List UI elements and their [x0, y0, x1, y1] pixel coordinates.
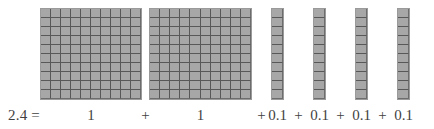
unit-cell [231, 90, 241, 99]
unit-cell [170, 81, 180, 90]
unit-cell [81, 54, 91, 63]
unit-cell [131, 72, 141, 81]
unit-cell [131, 81, 141, 90]
unit-cell [101, 9, 111, 18]
unit-cell [170, 9, 180, 18]
unit-cell [170, 18, 180, 27]
equation-left-hand-side: 2.4 = [8, 104, 40, 126]
unit-cell [221, 63, 231, 72]
unit-cell [71, 18, 81, 27]
unit-cell [314, 90, 325, 99]
unit-cell [201, 54, 211, 63]
unit-cell [211, 45, 221, 54]
unit-cell [61, 9, 71, 18]
unit-cell [51, 18, 61, 27]
unit-cell [272, 27, 283, 36]
unit-cell [190, 45, 200, 54]
unit-cell [160, 36, 170, 45]
unit-cell [81, 9, 91, 18]
unit-cell [221, 54, 231, 63]
unit-cell [81, 81, 91, 90]
unit-cell [111, 72, 121, 81]
block-rod-4 [397, 8, 410, 100]
unit-cell [150, 54, 160, 63]
unit-cell [201, 36, 211, 45]
unit-cell [211, 81, 221, 90]
unit-cell [71, 27, 81, 36]
unit-cell [241, 27, 251, 36]
unit-cell [201, 18, 211, 27]
unit-cell [101, 63, 111, 72]
block-flat-2 [149, 8, 252, 100]
unit-cell [201, 90, 211, 99]
unit-cell [121, 36, 131, 45]
unit-cell [111, 36, 121, 45]
unit-cell [41, 54, 51, 63]
unit-cell [356, 63, 367, 72]
unit-cell [241, 63, 251, 72]
unit-cell [81, 18, 91, 27]
unit-cell [190, 81, 200, 90]
unit-cell [201, 63, 211, 72]
unit-cell [190, 18, 200, 27]
unit-cell [81, 72, 91, 81]
unit-cell [272, 36, 283, 45]
unit-cell [61, 18, 71, 27]
unit-cell [41, 9, 51, 18]
unit-cell [131, 9, 141, 18]
unit-cell [211, 36, 221, 45]
unit-cell [121, 81, 131, 90]
unit-cell [71, 36, 81, 45]
unit-cell [51, 36, 61, 45]
unit-cell [71, 63, 81, 72]
unit-cell [61, 63, 71, 72]
unit-cell [221, 9, 231, 18]
unit-cell [61, 90, 71, 99]
unit-cell [398, 45, 409, 54]
block-rod-1 [271, 8, 284, 100]
unit-cell [190, 27, 200, 36]
unit-cell [121, 54, 131, 63]
unit-cell [41, 72, 51, 81]
block-rod-3 [355, 8, 368, 100]
unit-cell [221, 72, 231, 81]
unit-cell [150, 90, 160, 99]
unit-cell [314, 18, 325, 27]
unit-cell [356, 18, 367, 27]
unit-cell [131, 54, 141, 63]
unit-cell [190, 72, 200, 81]
unit-cell [91, 36, 101, 45]
unit-cell [51, 45, 61, 54]
unit-cell [170, 90, 180, 99]
unit-cell [121, 18, 131, 27]
unit-cell [131, 90, 141, 99]
unit-cell [91, 90, 101, 99]
unit-cell [231, 18, 241, 27]
unit-cell [170, 54, 180, 63]
unit-cell [170, 72, 180, 81]
unit-cell [160, 18, 170, 27]
unit-cell [180, 9, 190, 18]
unit-cell [398, 36, 409, 45]
unit-cell [201, 45, 211, 54]
unit-cell [71, 9, 81, 18]
unit-cell [231, 36, 241, 45]
unit-cell [231, 63, 241, 72]
unit-cell [41, 90, 51, 99]
unit-cell [160, 54, 170, 63]
unit-cell [314, 63, 325, 72]
unit-cell [211, 18, 221, 27]
unit-cell [398, 54, 409, 63]
unit-cell [51, 27, 61, 36]
unit-cell [101, 54, 111, 63]
unit-cell [131, 27, 141, 36]
equation-term-6: 0.1 [382, 104, 426, 126]
unit-cell [231, 27, 241, 36]
unit-cell [241, 81, 251, 90]
unit-cell [111, 45, 121, 54]
unit-cell [150, 36, 160, 45]
unit-cell [272, 90, 283, 99]
unit-cell [398, 9, 409, 18]
unit-cell [61, 54, 71, 63]
unit-cell [398, 63, 409, 72]
